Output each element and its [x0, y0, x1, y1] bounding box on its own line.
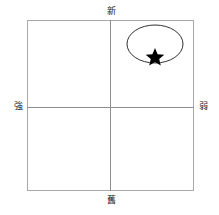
positioning-map-figure: 新 舊 強 弱 [0, 0, 219, 215]
cluster-overlay [0, 0, 219, 215]
axis-label-left: 強 [12, 101, 24, 111]
axis-label-top: 新 [104, 6, 118, 16]
axis-label-bottom: 舊 [104, 195, 118, 205]
axis-label-right: 弱 [197, 101, 209, 111]
